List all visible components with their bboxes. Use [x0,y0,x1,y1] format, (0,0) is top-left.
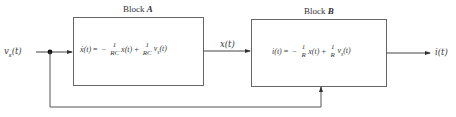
feedforward-path [50,52,321,107]
x-signal-label: x(t) [220,40,235,49]
block-diagram-canvas [0,0,456,117]
block-b-equation: i(t) = − 1R x(t) + 1R vs(t) [272,44,351,59]
input-label: vs(t) [4,47,22,58]
block-a-equation: ẋ(t) = − 1RC x(t) + 1RC vs(t) [80,42,167,57]
output-label: i(t) [435,48,448,57]
block-b-title: Block B [304,6,334,16]
block-a-title: Block A [123,4,153,14]
